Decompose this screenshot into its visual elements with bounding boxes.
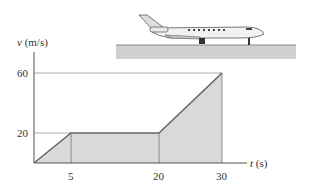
y-tick-60: 60 — [17, 67, 29, 79]
airplane-illustration — [116, 15, 296, 59]
area-under-curve — [34, 73, 222, 163]
y-tick-20: 20 — [17, 127, 29, 139]
x-tick-30: 30 — [216, 170, 228, 182]
velocity-time-chart: v (m/s) t (s) 60 20 5 20 30 — [0, 0, 310, 193]
x-axis-label: t (s) — [250, 157, 268, 170]
x-tick-20: 20 — [153, 170, 165, 182]
y-axis-label: v (m/s) — [17, 36, 48, 49]
runway-ground — [116, 45, 296, 59]
x-tick-5: 5 — [68, 170, 74, 182]
